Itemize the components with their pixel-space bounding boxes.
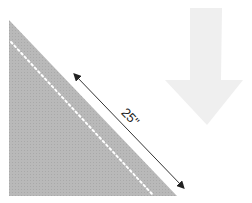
dimension-label: 25": [118, 105, 142, 129]
diagram-canvas: 25": [0, 0, 252, 203]
down-arrow-icon: [165, 8, 243, 125]
triangle-shape: [9, 20, 177, 196]
